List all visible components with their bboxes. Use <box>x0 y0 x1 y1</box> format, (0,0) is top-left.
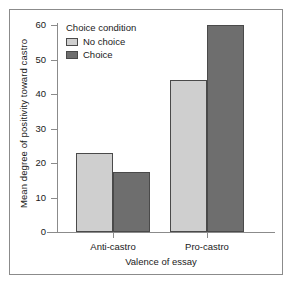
legend-item-no-choice: No choice <box>66 36 186 47</box>
legend-item-label: Choice <box>83 49 113 60</box>
bar-choice-anti-castro <box>113 172 150 232</box>
legend-item-label: No choice <box>83 36 125 47</box>
bar-no-choice-anti-castro <box>76 153 113 232</box>
x-tick-mark <box>207 233 208 238</box>
y-tick-label: 50 <box>6 54 46 65</box>
legend-item-choice: Choice <box>66 49 186 60</box>
y-tick-label: 30 <box>6 123 46 134</box>
y-tick-label: 40 <box>6 88 46 99</box>
y-tick-label: 20 <box>6 157 46 168</box>
y-tick-label: 60 <box>6 19 46 30</box>
y-tick-label: 10 <box>6 192 46 203</box>
bar-no-choice-pro-castro <box>170 80 207 232</box>
legend-entries: No choiceChoice <box>66 36 186 60</box>
bar-choice-pro-castro <box>207 25 244 232</box>
figure-canvas: Mean degree of positivity toward castro … <box>0 0 293 289</box>
legend-swatch-icon <box>66 51 78 59</box>
y-tick-mark <box>51 232 57 233</box>
y-tick-mark <box>51 94 57 95</box>
x-axis-line <box>47 232 275 233</box>
y-tick-mark <box>51 25 57 26</box>
y-axis-line <box>57 23 58 233</box>
x-axis-title: Valence of essay <box>47 256 275 267</box>
y-tick-mark <box>51 129 57 130</box>
legend: Choice condition No choiceChoice <box>66 22 186 62</box>
y-tick-label: 0 <box>6 226 46 237</box>
legend-swatch-icon <box>66 38 78 46</box>
x-tick-label-pro-castro: Pro-castro <box>157 241 257 252</box>
x-tick-mark <box>113 233 114 238</box>
y-tick-mark <box>51 60 57 61</box>
x-tick-label-anti-castro: Anti-castro <box>63 241 163 252</box>
y-tick-mark <box>51 198 57 199</box>
legend-title: Choice condition <box>66 22 186 33</box>
y-tick-mark <box>51 163 57 164</box>
